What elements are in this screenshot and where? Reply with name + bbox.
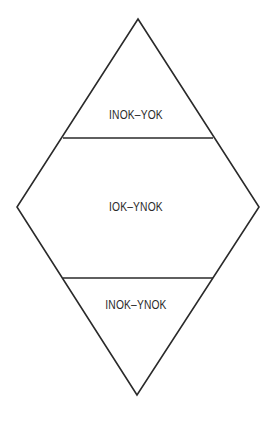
top-section-label: INOK–YOK [25,108,247,122]
diamond-diagram: INOK–YOK IOK–YNOK INOK–YNOK [0,0,271,431]
bottom-section-label: INOK–YNOK [25,298,247,312]
diamond-shape [0,0,271,431]
middle-section-label: IOK–YNOK [25,200,247,214]
